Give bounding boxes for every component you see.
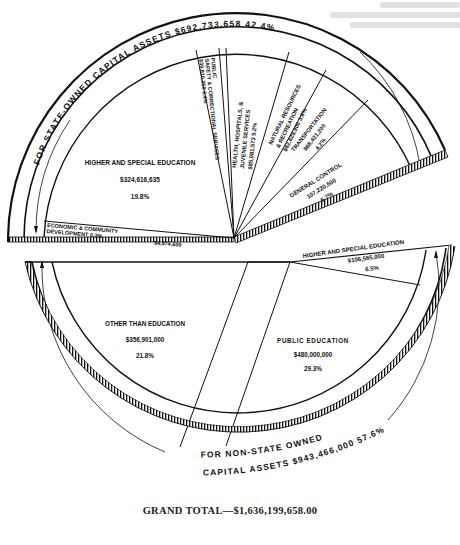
hse-ns-title: HIGHER AND SPECIAL EDUCATION bbox=[302, 239, 404, 259]
hse-state-percent: 19.8% bbox=[131, 193, 150, 200]
capital-assets-pie-chart: FOR STATE-OWNED CAPITAL ASSETS $692,733,… bbox=[0, 0, 460, 545]
grand-total: GRAND TOTAL—$1,636,199,658.00 bbox=[0, 505, 460, 516]
pe-percent: 29.3% bbox=[304, 365, 322, 372]
hse-state-amount: $324,616,635 bbox=[120, 176, 160, 184]
hse-state-title: HIGHER AND SPECIAL EDUCATION bbox=[85, 159, 196, 166]
ecd-amount: $4,974,600 bbox=[154, 239, 182, 247]
pe-amount: $480,000,000 bbox=[294, 351, 333, 359]
ote-amount: $356,901,000 bbox=[126, 336, 165, 344]
pe-title: PUBLIC EDUCATION bbox=[277, 337, 349, 344]
state-owned-section: FOR STATE-OWNED CAPITAL ASSETS $692,733,… bbox=[8, 13, 448, 248]
ote-title: OTHER THAN EDUCATION bbox=[105, 320, 185, 327]
hse-ns-percent: 6.5% bbox=[365, 264, 380, 272]
hse-ns-amount: $106,565,000 bbox=[347, 253, 385, 264]
non-state-owned-section: FOR NON-STATE OWNED CAPITAL ASSETS $943,… bbox=[25, 239, 455, 478]
ote-percent: 21.8% bbox=[136, 352, 154, 359]
state-ring-label: FOR STATE-OWNED CAPITAL ASSETS $692,733,… bbox=[31, 19, 276, 166]
